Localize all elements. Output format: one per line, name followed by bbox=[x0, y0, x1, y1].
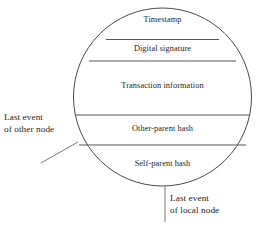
band-label-other-parent-hash: Other-parent hash bbox=[73, 124, 252, 134]
diagram-canvas: Timestamp Digital signature Transaction … bbox=[0, 0, 264, 227]
callout-local-node-line1: Last event bbox=[170, 193, 219, 205]
band-label-digital-signature: Digital signature bbox=[73, 44, 252, 54]
callout-local-node-line2: of local node bbox=[170, 205, 219, 217]
band-label-timestamp: Timestamp bbox=[73, 15, 252, 25]
callout-other-node-line1: Last event bbox=[4, 112, 54, 124]
band-label-self-parent-hash: Self-parent hash bbox=[73, 159, 252, 169]
callout-other-node-line2: of other node bbox=[4, 124, 54, 136]
band-label-transaction-information: Transaction information bbox=[73, 81, 252, 91]
callout-last-event-other-node: Last event of other node bbox=[4, 112, 54, 135]
callout-last-event-local-node: Last event of local node bbox=[170, 193, 219, 216]
